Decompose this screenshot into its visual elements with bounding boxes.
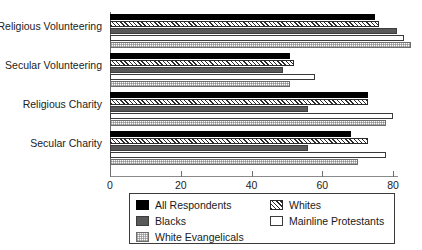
- bar-whiteev: [110, 81, 290, 87]
- legend: All RespondentsBlacksWhite Evangelicals …: [129, 193, 395, 244]
- legend-item: Blacks: [136, 213, 244, 228]
- bar-all: [110, 14, 375, 20]
- legend-swatch-whites: [270, 200, 283, 210]
- legend-label: White Evangelicals: [155, 232, 244, 242]
- x-axis-tick-label: 20: [175, 179, 187, 191]
- bar-whites: [110, 60, 294, 66]
- bar-whiteev: [110, 120, 386, 126]
- category-label: Religious Charity: [23, 99, 102, 110]
- legend-column-right: WhitesMainline Protestants: [270, 197, 384, 229]
- bar-whiteev: [110, 159, 358, 165]
- legend-item: Mainline Protestants: [270, 213, 384, 228]
- x-axis-tick-label: 40: [246, 179, 258, 191]
- bar-blacks: [110, 28, 397, 34]
- legend-swatch-blacks: [136, 216, 149, 226]
- legend-swatch-mainline: [270, 216, 283, 226]
- bar-group: [110, 14, 393, 52]
- bar-mainline: [110, 35, 404, 41]
- bar-group: [110, 92, 393, 130]
- category-label: Religious Volunteering: [0, 21, 102, 32]
- x-axis-tick-label: 0: [107, 179, 113, 191]
- bar-group: [110, 131, 393, 169]
- x-axis-tick: [181, 171, 182, 177]
- bar-whites: [110, 138, 368, 144]
- bar-whites: [110, 21, 379, 27]
- legend-swatch-whiteev: [136, 232, 149, 242]
- category-label: Secular Volunteering: [5, 60, 102, 71]
- plot-area: [110, 14, 393, 174]
- bar-group: [110, 53, 393, 91]
- x-axis-tick: [252, 171, 253, 177]
- legend-label: Mainline Protestants: [289, 216, 384, 226]
- bar-mainline: [110, 113, 393, 119]
- bar-whites: [110, 99, 368, 105]
- legend-item: Whites: [270, 197, 384, 212]
- legend-column-left: All RespondentsBlacksWhite Evangelicals: [136, 197, 244, 245]
- bar-blacks: [110, 106, 308, 112]
- x-axis-tick-label: 60: [316, 179, 328, 191]
- legend-label: All Respondents: [155, 200, 231, 210]
- bar-whiteev: [110, 42, 411, 48]
- category-axis-labels: Religious VolunteeringSecular Volunteeri…: [0, 14, 106, 174]
- x-axis-line: [110, 176, 398, 177]
- bar-blacks: [110, 67, 283, 73]
- bar-all: [110, 92, 368, 98]
- x-axis-tick: [322, 171, 323, 177]
- legend-item: All Respondents: [136, 197, 244, 212]
- legend-item: White Evangelicals: [136, 229, 244, 244]
- x-axis-tick-label: 80: [387, 179, 399, 191]
- legend-swatch-all: [136, 200, 149, 210]
- bar-all: [110, 53, 290, 59]
- x-axis-tick: [393, 171, 394, 177]
- bar-chart: Religious VolunteeringSecular Volunteeri…: [0, 0, 422, 250]
- bar-all: [110, 131, 351, 137]
- legend-label: Whites: [289, 200, 321, 210]
- bar-blacks: [110, 145, 308, 151]
- bar-mainline: [110, 152, 386, 158]
- category-label: Secular Charity: [30, 138, 102, 149]
- bar-mainline: [110, 74, 315, 80]
- x-axis-tick: [110, 171, 111, 177]
- legend-label: Blacks: [155, 216, 186, 226]
